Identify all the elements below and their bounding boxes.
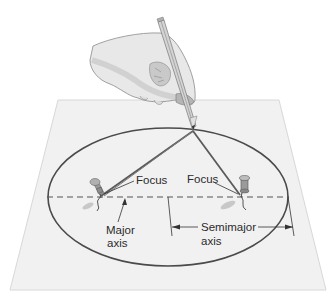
major-axis-label-line1: Major bbox=[106, 224, 135, 237]
focus-right-label: Focus bbox=[187, 173, 218, 186]
major-axis-label-line2: axis bbox=[107, 237, 127, 250]
ellipse-drawing-diagram: Focus Focus Major axis Semimajor axis bbox=[0, 0, 336, 301]
semimajor-axis-label-line2: axis bbox=[201, 235, 221, 248]
hand-illustration bbox=[90, 33, 195, 105]
focus-left-label: Focus bbox=[136, 174, 167, 187]
semimajor-axis-label-line1: Semimajor bbox=[201, 221, 256, 234]
